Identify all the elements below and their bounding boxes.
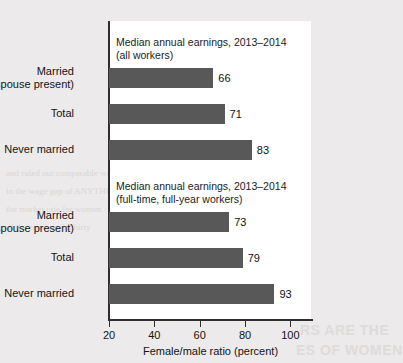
group-0-annotation-line-1: Median annual earnings, 2013–2014: [116, 36, 286, 49]
category-label-g1-1: Total: [51, 251, 74, 264]
group-1-annotation: Median annual earnings, 2013–2014 (full-…: [116, 180, 286, 206]
x-axis-line: [108, 319, 313, 321]
category-label-g1-0: Married(spouse present): [0, 209, 74, 234]
bar-value-label-g0-0: 66: [218, 68, 230, 88]
bar-g1-2: [109, 284, 274, 304]
bar-g1-0: [109, 212, 229, 232]
category-label-line-1: Never married: [4, 287, 74, 300]
x-tick-3: [245, 321, 246, 327]
category-label-line-1: Married: [0, 65, 74, 78]
category-label-line-1: Married: [0, 209, 74, 222]
category-label-line-2: (spouse present): [0, 222, 74, 235]
category-label-line-2: (spouse present): [0, 78, 74, 91]
category-label-line-1: Never married: [4, 143, 74, 156]
x-tick-label-4: 100: [281, 329, 299, 341]
category-label-g0-2: Never married: [4, 143, 74, 156]
bar-value-label-g1-2: 93: [279, 284, 291, 304]
x-tick-1: [154, 321, 155, 327]
x-tick-label-3: 80: [239, 329, 251, 341]
x-tick-4: [290, 321, 291, 327]
bar-g0-2: [109, 140, 252, 160]
x-tick-2: [200, 321, 201, 327]
group-1-annotation-line-1: Median annual earnings, 2013–2014: [116, 180, 286, 193]
x-tick-label-2: 60: [194, 329, 206, 341]
y-axis-line: [108, 21, 110, 319]
plot-panel: [108, 21, 311, 319]
group-0-annotation-line-2: (all workers): [116, 49, 286, 62]
bar-g1-1: [109, 248, 243, 268]
group-0-annotation: Median annual earnings, 2013–2014 (all w…: [116, 36, 286, 62]
group-1-annotation-line-2: (full-time, full-year workers): [116, 193, 286, 206]
x-tick-0: [109, 321, 110, 327]
x-tick-label-0: 20: [103, 329, 115, 341]
bar-value-label-g1-0: 73: [234, 212, 246, 232]
bar-value-label-g1-1: 79: [248, 248, 260, 268]
bar-g0-0: [109, 68, 213, 88]
x-axis-title: Female/male ratio (percent): [108, 345, 313, 357]
category-label-g0-0: Married(spouse present): [0, 65, 74, 90]
bar-value-label-g0-2: 83: [257, 140, 269, 160]
category-label-g0-1: Total: [51, 107, 74, 120]
category-label-g1-2: Never married: [4, 287, 74, 300]
x-tick-label-1: 40: [148, 329, 160, 341]
bar-g0-1: [109, 104, 225, 124]
category-label-line-1: Total: [51, 107, 74, 120]
bar-value-label-g0-1: 71: [230, 104, 242, 124]
category-label-line-1: Total: [51, 251, 74, 264]
